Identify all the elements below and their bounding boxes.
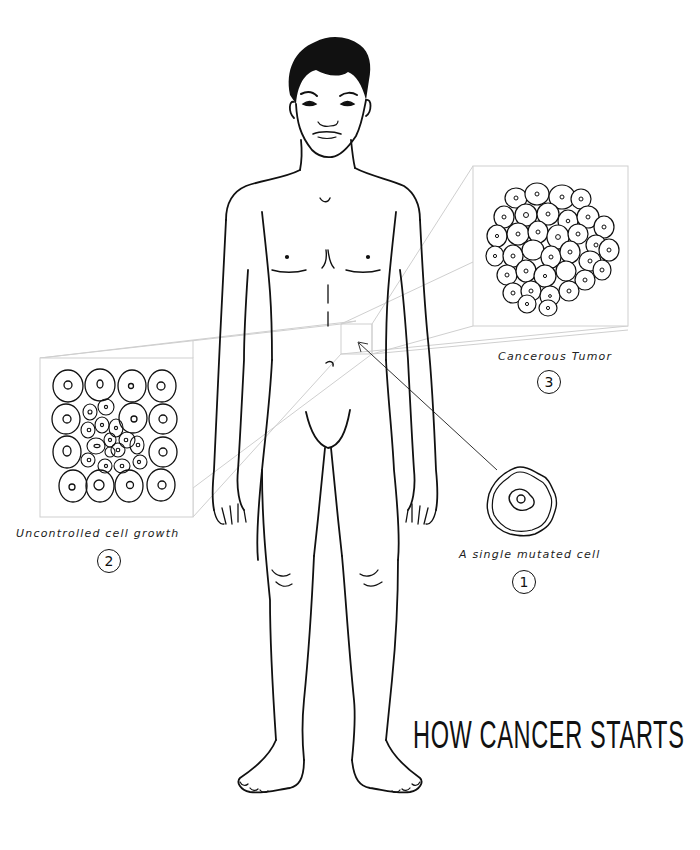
pointer-arrow [358,342,497,470]
stage-3-label: Cancerous Tumor [498,350,612,363]
stage-2-label: Uncontrolled cell growth [16,527,179,540]
stage-1-label: A single mutated cell [459,548,601,561]
stage-2-number: 2 [97,549,121,573]
page-title: HOW CANCER STARTS [413,714,684,757]
stage-3-number: 3 [537,370,561,394]
human-figure [213,37,438,793]
mutated-cell-illustration [487,467,556,536]
tumor-box [473,166,628,326]
uncontrolled-growth-box [40,358,193,517]
stage-1-number: 1 [512,570,536,594]
